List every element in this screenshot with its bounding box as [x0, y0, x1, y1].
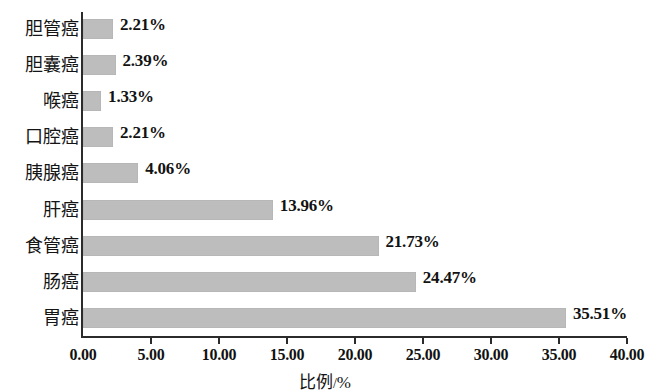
x-axis-tick-label: 30.00 — [474, 346, 509, 364]
y-axis-category-label: 食管癌 — [1, 236, 79, 256]
bar[interactable] — [83, 163, 138, 183]
x-axis-tick-label: 25.00 — [406, 346, 441, 364]
bar[interactable] — [83, 308, 566, 328]
x-axis-tick-mark — [490, 338, 492, 344]
x-axis-tick-label: 10.00 — [202, 346, 237, 364]
bar-value-label: 21.73% — [386, 232, 440, 252]
y-axis-category-label: 胆管癌 — [1, 19, 79, 39]
bar-row[interactable]: 4.06% — [83, 156, 627, 190]
x-axis-title-unit: % — [337, 373, 351, 392]
bar-value-label: 24.47% — [423, 268, 477, 288]
bar[interactable] — [83, 272, 416, 292]
x-axis-tick-label: 20.00 — [338, 346, 373, 364]
y-axis-category-label: 胆囊癌 — [1, 55, 79, 75]
plot-area: 2.21%2.39%1.33%2.21%4.06%13.96%21.73%24.… — [83, 12, 627, 337]
bar-chart-figure: 胆管癌胆囊癌喉癌口腔癌胰腺癌肝癌食管癌肠癌胃癌 2.21%2.39%1.33%2… — [0, 0, 650, 392]
x-axis-tick-mark — [218, 338, 220, 344]
x-axis-tick-mark — [626, 338, 628, 344]
x-axis-tick-label: 35.00 — [542, 346, 577, 364]
x-axis-tick-label: 5.00 — [138, 346, 165, 364]
y-axis-category-label: 口腔癌 — [1, 127, 79, 147]
bar-row[interactable]: 2.39% — [83, 48, 627, 82]
x-axis-tick-label: 0.00 — [70, 346, 97, 364]
y-axis-category-label: 胃癌 — [1, 308, 79, 328]
bar-row[interactable]: 24.47% — [83, 265, 627, 299]
bar-row[interactable]: 2.21% — [83, 120, 627, 154]
y-axis-category-label: 喉癌 — [1, 91, 79, 111]
bar-value-label: 13.96% — [280, 196, 334, 216]
bar-row[interactable]: 13.96% — [83, 193, 627, 227]
x-axis-tick-mark — [286, 338, 288, 344]
bar-value-label: 2.39% — [123, 51, 169, 71]
bar[interactable] — [83, 91, 101, 111]
x-axis-tick-mark — [422, 338, 424, 344]
bar[interactable] — [83, 19, 113, 39]
bar-row[interactable]: 21.73% — [83, 229, 627, 263]
bar-value-label: 35.51% — [573, 304, 627, 324]
y-axis-category-labels: 胆管癌胆囊癌喉癌口腔癌胰腺癌肝癌食管癌肠癌胃癌 — [0, 12, 79, 337]
bar-value-label: 2.21% — [120, 123, 166, 143]
bar[interactable] — [83, 55, 116, 75]
bar-row[interactable]: 2.21% — [83, 12, 627, 46]
x-axis-tick-label: 15.00 — [270, 346, 305, 364]
x-axis-title-name: 比例 — [299, 373, 333, 392]
x-axis-tick-label: 40.00 — [610, 346, 645, 364]
y-axis-category-label: 肝癌 — [1, 200, 79, 220]
x-axis-tick-mark — [558, 338, 560, 344]
x-axis-title: 比例/% — [0, 368, 650, 392]
x-axis-tick-mark — [354, 338, 356, 344]
bar-value-label: 2.21% — [120, 15, 166, 35]
bar-row[interactable]: 1.33% — [83, 84, 627, 118]
bar[interactable] — [83, 200, 273, 220]
bar-row[interactable]: 35.51% — [83, 301, 627, 335]
bar-value-label: 4.06% — [145, 159, 191, 179]
bar[interactable] — [83, 127, 113, 147]
x-axis-tick-mark — [150, 338, 152, 344]
bar-value-label: 1.33% — [108, 87, 154, 107]
bar[interactable] — [83, 236, 379, 256]
y-axis-category-label: 胰腺癌 — [1, 163, 79, 183]
y-axis-category-label: 肠癌 — [1, 272, 79, 292]
